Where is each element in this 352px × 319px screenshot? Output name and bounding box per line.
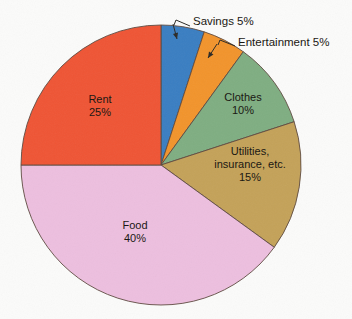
callout-leader-savings [174,20,190,26]
callout-label-savings: Savings 5% [193,15,254,27]
slice-label-food: Food40% [122,218,147,243]
slice-label-rent: Rent25% [88,92,111,117]
budget-pie-chart: Clothes10%Utilities,insurance, etc.15%Fo… [0,0,352,319]
callout-label-entertainment: Entertainment 5% [238,36,329,48]
pie-chart-page: APPENDIX Clothes10%Utilities,insurance, … [0,0,352,319]
